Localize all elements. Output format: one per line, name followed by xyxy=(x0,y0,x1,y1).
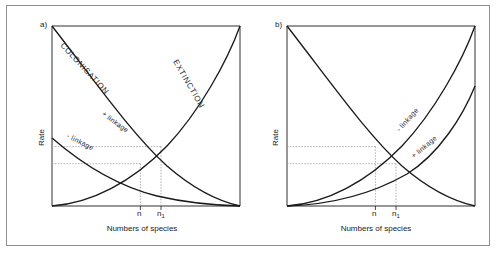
panel-a-x-axis-label: Numbers of species xyxy=(47,224,237,233)
panel-b-x-axis-label: Numbers of species xyxy=(281,224,471,233)
panel-b-tick-label-n1: n1 xyxy=(392,209,400,218)
panel-b: b) Rate xyxy=(247,6,489,245)
panel-a-plot xyxy=(7,6,249,245)
panel-b-plot xyxy=(247,6,489,245)
panel-b-curve-extinction-minus-linkage xyxy=(287,26,475,206)
panel-a-axes xyxy=(52,26,240,206)
panel-a-y-axis-label: Rate xyxy=(37,129,46,146)
panel-b-axes xyxy=(287,26,475,206)
panel-b-tick-label-n: n xyxy=(372,209,376,218)
panel-b-guide-n xyxy=(287,147,375,206)
panel-a: a) xyxy=(7,6,249,245)
panel-b-y-axis-label: Rate xyxy=(271,129,280,146)
panel-b-curve-extinction-plus-linkage xyxy=(287,86,475,206)
panel-b-curve-colonisation xyxy=(287,26,475,206)
panel-a-tick-label-n: n xyxy=(137,209,141,218)
figure-frame: a) xyxy=(6,5,490,246)
panel-a-curve-colonisation-plus-linkage xyxy=(52,26,240,206)
panel-a-curve-extinction xyxy=(52,26,240,206)
panel-a-tick-label-n1: n1 xyxy=(157,209,165,218)
